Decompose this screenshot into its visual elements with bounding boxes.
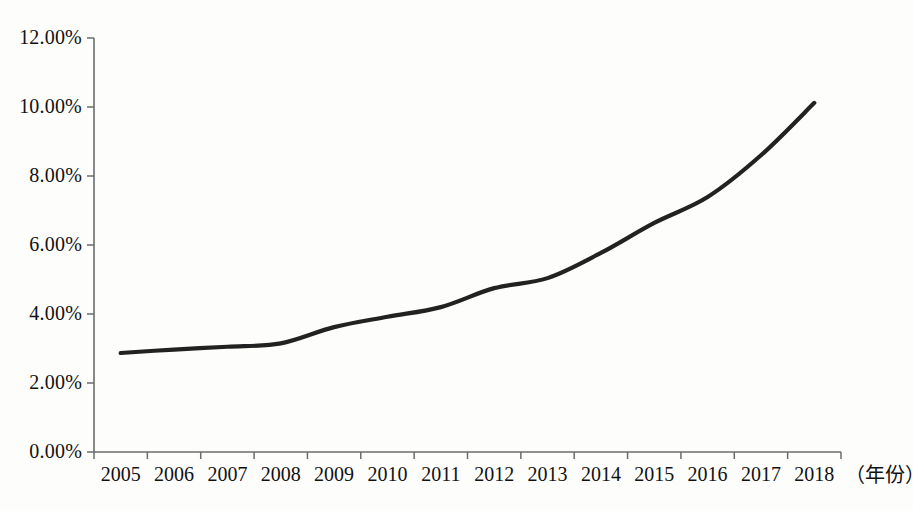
axis-lines bbox=[94, 38, 841, 452]
y-axis-tick-label: 8.00% bbox=[4, 165, 82, 185]
x-axis-tick-label: 2010 bbox=[367, 462, 407, 486]
x-axis-tick-label: 2018 bbox=[794, 462, 834, 486]
y-axis-tick-labels: 0.00%2.00%4.00%6.00%8.00%10.00%12.00% bbox=[0, 0, 82, 511]
y-axis-tick-label: 10.00% bbox=[4, 96, 82, 116]
x-axis-tick-label: 2007 bbox=[207, 462, 247, 486]
y-axis-tick-label: 0.00% bbox=[4, 441, 82, 461]
x-axis-tick-label: 2006 bbox=[154, 462, 194, 486]
x-axis-tick-labels: 2005200620072008200920102011201220132014… bbox=[0, 462, 913, 496]
y-axis-tick-label: 6.00% bbox=[4, 234, 82, 254]
line-chart: 0.00%2.00%4.00%6.00%8.00%10.00%12.00% 20… bbox=[0, 0, 913, 511]
x-axis-tick-label: 2016 bbox=[688, 462, 728, 486]
chart-plot-area bbox=[0, 0, 913, 511]
y-axis-tick-label: 4.00% bbox=[4, 303, 82, 323]
x-axis-tick-label: 2005 bbox=[101, 462, 141, 486]
x-axis-tick-label: 2008 bbox=[261, 462, 301, 486]
x-axis-title: （年份） bbox=[845, 463, 913, 487]
x-axis-tick-label: 2011 bbox=[421, 462, 460, 486]
x-axis-tick-label: 2012 bbox=[474, 462, 514, 486]
x-axis-tick-label: 2009 bbox=[314, 462, 354, 486]
x-axis-tick-label: 2014 bbox=[581, 462, 621, 486]
x-axis-tick-label: 2017 bbox=[741, 462, 781, 486]
y-axis-ticks bbox=[87, 38, 94, 452]
y-axis-tick-label: 2.00% bbox=[4, 372, 82, 392]
y-axis-tick-label: 12.00% bbox=[4, 27, 82, 47]
x-axis-ticks bbox=[94, 452, 841, 459]
x-axis-tick-label: 2015 bbox=[634, 462, 674, 486]
x-axis-tick-label: 2013 bbox=[528, 462, 568, 486]
data-line-series bbox=[121, 103, 815, 353]
